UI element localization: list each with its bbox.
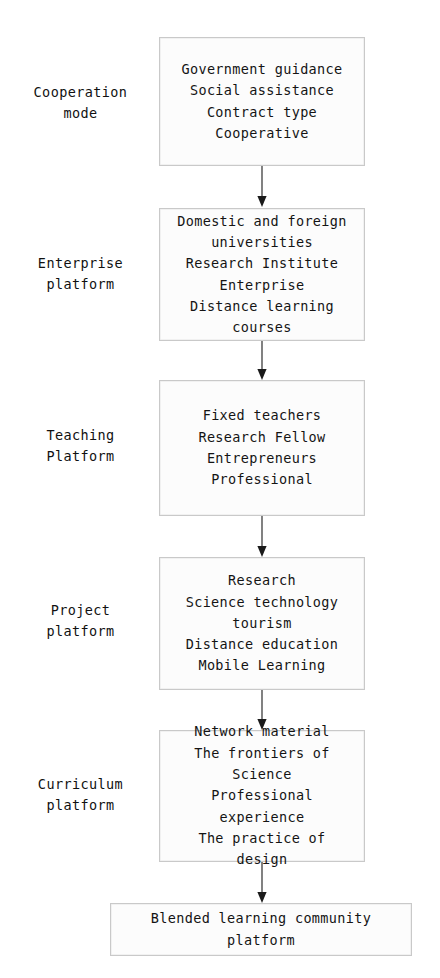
stage-teaching-platform: Teaching Platform Fixed teachers Researc… bbox=[0, 380, 440, 516]
arrow-enterprise-to-teaching bbox=[255, 341, 269, 381]
stage-label-cooperation-mode: Cooperation mode bbox=[8, 82, 153, 124]
node-box-enterprise-platform[interactable]: Domestic and foreign universities Resear… bbox=[159, 208, 365, 341]
node-box-teaching-platform[interactable]: Fixed teachers Research Fellow Entrepren… bbox=[159, 380, 365, 516]
node-text-blended-learning-community-platform: Blended learning community platform bbox=[111, 908, 411, 951]
node-box-project-platform[interactable]: Research Science technology tourism Dist… bbox=[159, 557, 365, 690]
node-text-project-platform: Research Science technology tourism Dist… bbox=[160, 570, 364, 677]
stage-enterprise-platform: Enterprise platform Domestic and foreign… bbox=[0, 208, 440, 341]
flow-diagram: Cooperation mode Government guidance Soc… bbox=[0, 0, 440, 978]
node-box-curriculum-platform[interactable]: Network material The frontiers of Scienc… bbox=[159, 730, 365, 862]
stage-label-project-platform: Project platform bbox=[8, 600, 153, 642]
stage-label-curriculum-platform: Curriculum platform bbox=[8, 774, 153, 816]
node-text-curriculum-platform: Network material The frontiers of Scienc… bbox=[160, 721, 364, 870]
node-box-cooperation-mode[interactable]: Government guidance Social assistance Co… bbox=[159, 37, 365, 166]
arrow-teaching-to-project bbox=[255, 516, 269, 558]
node-text-enterprise-platform: Domestic and foreign universities Resear… bbox=[160, 211, 364, 339]
node-text-cooperation-mode: Government guidance Social assistance Co… bbox=[160, 59, 364, 144]
stage-project-platform: Project platform Research Science techno… bbox=[0, 557, 440, 690]
stage-label-enterprise-platform: Enterprise platform bbox=[8, 253, 153, 295]
stage-curriculum-platform: Curriculum platform Network material The… bbox=[0, 730, 440, 862]
node-box-blended-learning-community-platform[interactable]: Blended learning community platform bbox=[110, 903, 412, 956]
stage-label-teaching-platform: Teaching Platform bbox=[8, 425, 153, 467]
stage-cooperation-mode: Cooperation mode Government guidance Soc… bbox=[0, 0, 440, 200]
node-text-teaching-platform: Fixed teachers Research Fellow Entrepren… bbox=[160, 405, 364, 490]
